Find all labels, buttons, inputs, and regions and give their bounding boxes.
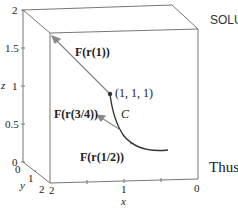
vector-label-f12: F(r(1/2)) (80, 150, 124, 164)
z-axis-label: z (0, 79, 6, 91)
vector-field-figure: 0 0.5 1 1.5 2 z 0 1 2 y 2 1 0 x (1, 1, 1… (0, 0, 238, 208)
x-tick-1: 1 (121, 183, 127, 195)
x-tick-2: 2 (49, 184, 55, 196)
z-tick-0.5: 0.5 (5, 118, 19, 130)
box-top-left-diagonal (23, 10, 50, 33)
box-back-top-edge (23, 5, 172, 10)
x-axis-label: x (120, 195, 126, 207)
z-tick-1.5: 1.5 (5, 42, 19, 54)
side-body: Thus (209, 159, 238, 175)
z-tick-1: 1 (12, 80, 18, 92)
box-top-right-diagonal (172, 5, 198, 29)
vector-label-f1: F(r(1)) (75, 45, 110, 59)
point-label: (1, 1, 1) (115, 86, 153, 100)
point-1-1-1 (108, 92, 112, 96)
z-tick-2: 2 (12, 4, 18, 16)
vector-label-f34: F(r(3/4)) (54, 107, 98, 121)
vector-f1-arrowhead (52, 36, 60, 43)
curve-label: C (121, 107, 130, 121)
y-axis-label: y (19, 179, 25, 191)
side-heading: SOLU (210, 13, 238, 27)
y-tick-2: 2 (39, 183, 45, 195)
y-tick-1: 1 (28, 172, 34, 184)
box-front-top-edge (50, 29, 198, 33)
x-tick-0: 0 (194, 182, 200, 194)
curve-c (110, 94, 168, 150)
y-tick-0: 0 (15, 163, 21, 175)
